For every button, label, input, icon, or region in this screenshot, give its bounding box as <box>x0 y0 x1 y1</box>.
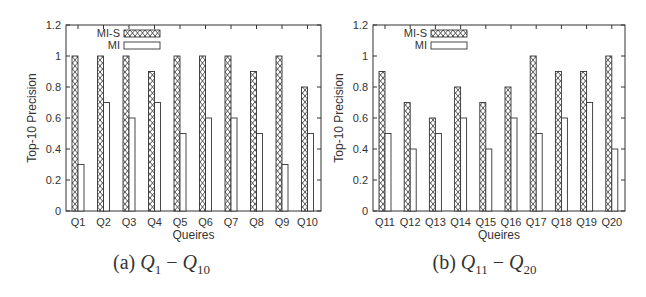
y-tick-label: 0.8 <box>46 81 61 93</box>
bar-group-q17 <box>530 56 542 211</box>
x-tick-label: Q5 <box>173 216 188 228</box>
caption-a: (a) Q1 − Q10 <box>0 251 323 278</box>
bar-mi <box>206 118 212 211</box>
bar-group-q16 <box>505 87 517 211</box>
y-tick-label: 0.4 <box>353 143 368 155</box>
bar-mi-s <box>555 72 561 212</box>
bar-mi <box>461 118 467 211</box>
x-tick-label: Q10 <box>297 216 318 228</box>
bar-mi <box>180 134 186 212</box>
bar-mi-s <box>149 72 155 212</box>
legend-label: MI <box>108 39 120 51</box>
bar-mi-s <box>72 56 78 211</box>
x-tick-label: Q4 <box>147 216 162 228</box>
y-tick-label: 1.2 <box>46 19 61 31</box>
bar-chart-b: 00.20.40.60.811.2Top-10 PrecisionQ11Q12Q… <box>323 0 646 250</box>
bar-mi-s <box>98 56 104 211</box>
y-tick-label: 1.2 <box>353 19 368 31</box>
caption-a-to: Q <box>182 251 196 273</box>
bar-group-q20 <box>606 56 618 211</box>
x-tick-label: Q8 <box>249 216 264 228</box>
x-tick-label: Q13 <box>425 216 446 228</box>
bar-group-q3 <box>123 56 135 211</box>
y-tick-label: 1 <box>362 50 368 62</box>
x-tick-label: Q9 <box>275 216 290 228</box>
bar-mi-s <box>455 87 461 211</box>
legend-swatch <box>124 42 160 49</box>
caption-b: (b) Q11 − Q20 <box>323 251 646 278</box>
bar-group-q14 <box>455 87 467 211</box>
x-tick-label: Q1 <box>71 216 86 228</box>
x-tick-label: Q2 <box>96 216 111 228</box>
bar-mi <box>612 149 618 211</box>
y-tick-label: 0.2 <box>353 174 368 186</box>
y-tick-label: 0.2 <box>46 174 61 186</box>
chart-panel-b: 00.20.40.60.811.2Top-10 PrecisionQ11Q12Q… <box>323 0 646 297</box>
bar-group-q13 <box>429 118 441 211</box>
bar-group-q9 <box>276 56 288 211</box>
bar-mi <box>410 149 416 211</box>
x-tick-label: Q7 <box>224 216 239 228</box>
x-axis-label: Queires <box>478 228 520 242</box>
bar-group-q1 <box>72 56 84 211</box>
x-tick-label: Q11 <box>375 216 395 228</box>
caption-a-from: Q <box>140 251 154 273</box>
legend-swatch <box>431 30 467 37</box>
bar-mi <box>587 103 593 212</box>
bar-mi <box>561 118 567 211</box>
bar-group-q2 <box>98 56 110 211</box>
bar-mi-s <box>480 103 486 212</box>
x-tick-label: Q18 <box>551 216 572 228</box>
bar-mi-s <box>379 72 385 212</box>
bar-group-q7 <box>225 56 237 211</box>
x-axis-label: Queires <box>172 228 214 242</box>
bar-mi-s <box>251 72 257 212</box>
y-tick-label: 0.6 <box>353 112 368 124</box>
bar-mi <box>511 118 517 211</box>
bar-group-q8 <box>251 72 263 212</box>
bar-mi <box>104 103 110 212</box>
bar-mi <box>282 165 288 212</box>
bar-mi-s <box>606 56 612 211</box>
legend-label: MI-S <box>404 27 427 39</box>
bar-group-q12 <box>404 103 416 212</box>
y-tick-label: 0 <box>55 205 61 217</box>
x-tick-label: Q14 <box>450 216 471 228</box>
chart-panel-a: 00.20.40.60.811.2Top-10 PrecisionQ1Q2Q3Q… <box>0 0 323 297</box>
bar-mi-s <box>429 118 435 211</box>
bar-mi <box>385 134 391 212</box>
bar-mi <box>231 118 237 211</box>
bar-group-q10 <box>302 87 314 211</box>
bar-mi-s <box>200 56 206 211</box>
bar-mi <box>486 149 492 211</box>
x-tick-label: Q19 <box>576 216 597 228</box>
x-tick-label: Q17 <box>526 216 547 228</box>
bar-mi-s <box>404 103 410 212</box>
bar-group-q5 <box>174 56 186 211</box>
x-tick-label: Q16 <box>501 216 522 228</box>
legend-label: MI-S <box>97 27 120 39</box>
x-tick-label: Q3 <box>122 216 137 228</box>
y-tick-label: 0.6 <box>46 112 61 124</box>
bar-mi <box>536 134 542 212</box>
bar-mi <box>129 118 135 211</box>
legend-label: MI <box>415 39 427 51</box>
bar-group-q4 <box>149 72 161 212</box>
bar-mi <box>78 165 84 212</box>
caption-a-label: (a) <box>113 251 135 273</box>
bar-mi-s <box>302 87 308 211</box>
bar-mi-s <box>174 56 180 211</box>
bar-mi-s <box>505 87 511 211</box>
caption-b-from: Q <box>461 251 475 273</box>
legend-swatch <box>431 42 467 49</box>
bar-group-q6 <box>200 56 212 211</box>
bar-group-q15 <box>480 103 492 212</box>
y-tick-label: 1 <box>55 50 61 62</box>
bar-group-q18 <box>555 72 567 212</box>
bar-mi-s <box>276 56 282 211</box>
y-tick-label: 0.8 <box>353 81 368 93</box>
x-tick-label: Q20 <box>601 216 622 228</box>
bar-group-q19 <box>581 72 593 212</box>
x-tick-label: Q6 <box>198 216 213 228</box>
bar-mi-s <box>581 72 587 212</box>
